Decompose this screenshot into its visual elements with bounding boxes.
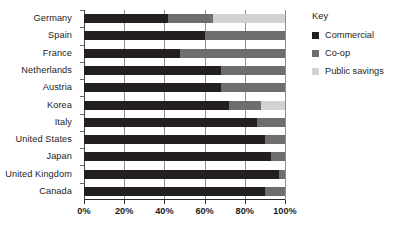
bar-row [84,101,285,110]
y-axis-tick [80,27,84,28]
bar-row [84,49,285,58]
bar-segment [180,49,285,58]
bar-segment [84,66,221,75]
y-axis-tick [80,183,84,184]
bar-segment [84,187,265,196]
bar-segment [229,101,261,110]
bar-row [84,135,285,144]
y-axis-tick [80,10,84,11]
category-label: Netherlands [21,63,72,78]
bar-segment [221,83,285,92]
category-label: Austria [43,80,72,95]
bar-segment [84,49,180,58]
legend-swatch-icon [312,32,319,39]
x-axis-tick [205,200,206,204]
bar-segment [213,14,285,23]
bar-row [84,170,285,179]
category-label: Italy [55,115,72,130]
category-axis: GermanySpainFranceNetherlandsAustriaKore… [0,10,78,200]
bar-segment [84,152,271,161]
x-axis-tick [124,200,125,204]
bar-row [84,31,285,40]
legend-items: CommercialCo-opPublic savings [312,30,398,76]
stacked-bar-chart: GermanySpainFranceNetherlandsAustriaKore… [0,0,399,236]
bar-segment [257,118,285,127]
y-axis-tick [80,79,84,80]
legend-swatch-icon [312,68,319,75]
y-axis-tick [80,165,84,166]
bar-segment [168,14,212,23]
bar-segment [84,101,229,110]
legend-item: Commercial [312,30,398,40]
plot-area [84,10,285,200]
x-axis-tick [84,200,85,204]
category-label: Spain [48,28,72,43]
y-axis-tick [80,45,84,46]
y-axis-tick [80,62,84,63]
category-label: Canada [39,184,72,199]
legend-label: Co-op [325,48,350,58]
x-axis-tick [164,200,165,204]
bar-segment [84,135,265,144]
chart-legend: Key CommercialCo-opPublic savings [312,10,398,84]
y-axis-tick [80,114,84,115]
x-axis-tick-label: 20% [115,205,133,217]
legend-label: Public savings [325,66,384,76]
category-label: United Kingdom [5,167,72,182]
y-axis-tick [80,96,84,97]
bar-segment [221,66,285,75]
legend-title: Key [312,10,398,22]
bar-segment [84,83,221,92]
category-label: Germany [34,11,72,26]
x-axis-tick-label: 0% [77,205,90,217]
y-axis-tick [80,148,84,149]
y-axis-tick [80,131,84,132]
gridline [285,10,286,200]
legend-item: Co-op [312,48,398,58]
bar-row [84,118,285,127]
bar-segment [265,135,285,144]
bar-segment [261,101,285,110]
bar-row [84,187,285,196]
bar-segment [84,14,168,23]
bar-row [84,152,285,161]
legend-item: Public savings [312,66,398,76]
category-label: Korea [47,98,72,113]
bar-segment [265,187,285,196]
x-axis-tick-label: 40% [155,205,173,217]
category-label: United States [16,132,72,147]
x-axis-tick-label: 100% [273,205,297,217]
x-axis-tick-label: 80% [236,205,254,217]
x-axis-tick-labels: 0%20%40%60%80%100% [0,205,399,221]
x-axis-tick-label: 60% [195,205,213,217]
category-label: Japan [46,149,72,164]
bar-segment [279,170,285,179]
bar-row [84,14,285,23]
bar-segment [84,118,257,127]
bar-row [84,66,285,75]
legend-swatch-icon [312,50,319,57]
x-axis-tick [245,200,246,204]
legend-label: Commercial [325,30,374,40]
bar-segment [205,31,285,40]
bar-segment [271,152,285,161]
bar-row [84,83,285,92]
x-axis-tick [285,200,286,204]
bar-segment [84,170,279,179]
bar-segment [84,31,205,40]
category-label: France [43,46,72,61]
